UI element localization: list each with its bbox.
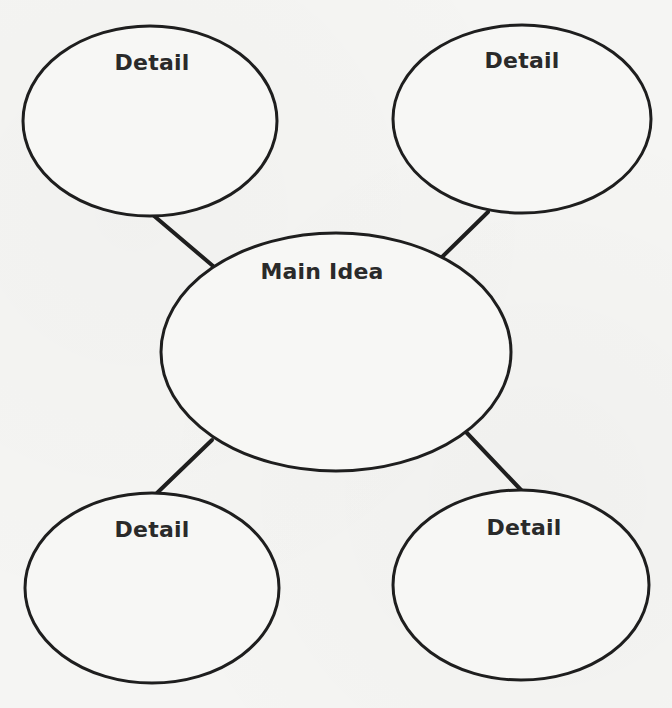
connector-top-left	[153, 215, 213, 266]
connector-top-right	[441, 212, 488, 258]
detail-label-bottom-left: Detail	[115, 517, 190, 542]
detail-label-bottom-right: Detail	[487, 515, 562, 540]
detail-label-top-right: Detail	[485, 48, 560, 73]
main-idea-label: Main Idea	[260, 259, 383, 284]
detail-label-top-left: Detail	[115, 50, 190, 75]
connector-bottom-right	[466, 432, 522, 491]
graphic-organizer	[0, 0, 672, 708]
connector-bottom-left	[157, 440, 212, 493]
